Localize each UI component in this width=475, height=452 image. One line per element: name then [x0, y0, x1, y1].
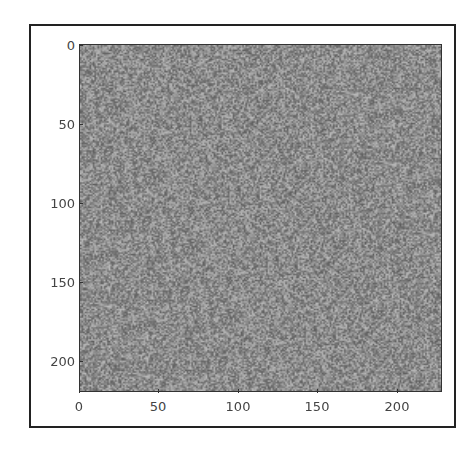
y-tick-mark — [79, 124, 83, 125]
noise-image — [80, 45, 441, 391]
x-tick-label: 100 — [226, 399, 251, 414]
x-tick-mark — [317, 389, 318, 393]
y-tick-mark — [79, 203, 83, 204]
x-tick-label: 50 — [150, 399, 167, 414]
y-tick-label: 150 — [50, 275, 75, 290]
x-tick-mark — [397, 389, 398, 393]
y-tick-mark — [79, 282, 83, 283]
y-tick-label: 0 — [67, 38, 75, 53]
y-tick-mark — [79, 361, 83, 362]
y-tick-mark — [79, 45, 83, 46]
y-tick-label: 50 — [58, 117, 75, 132]
x-tick-label: 150 — [305, 399, 330, 414]
noise-image-plot — [79, 44, 442, 392]
y-tick-label: 200 — [50, 354, 75, 369]
x-tick-label: 0 — [75, 399, 83, 414]
x-tick-mark — [79, 389, 80, 393]
x-tick-mark — [238, 389, 239, 393]
x-tick-mark — [158, 389, 159, 393]
x-tick-label: 200 — [385, 399, 410, 414]
y-tick-label: 100 — [50, 196, 75, 211]
